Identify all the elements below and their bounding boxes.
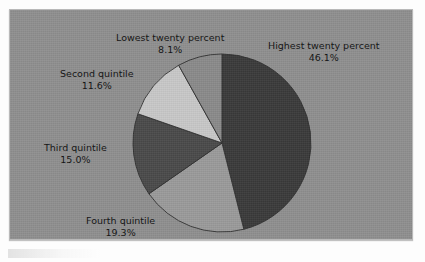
pie-label-name: Fourth quintile	[86, 215, 155, 227]
pie-label-second-quintile: Second quintile 11.6%	[60, 68, 134, 92]
chart-frame: Highest twenty percent 46.1% Lowest twen…	[9, 9, 413, 240]
pie-label-lowest-twenty-percent: Lowest twenty percent 8.1%	[116, 32, 224, 56]
pie-label-name: Third quintile	[44, 142, 107, 154]
pie-chart-plot-area: Highest twenty percent 46.1% Lowest twen…	[10, 10, 412, 239]
pie-slice-group	[133, 54, 311, 232]
pie-label-value: 8.1%	[116, 44, 224, 56]
pie-label-name: Highest twenty percent	[268, 40, 380, 52]
pie-label-third-quintile: Third quintile 15.0%	[44, 142, 107, 166]
pie-label-highest-twenty-percent: Highest twenty percent 46.1%	[268, 40, 380, 64]
pie-label-fourth-quintile: Fourth quintile 19.3%	[86, 215, 155, 239]
scan-artifact	[8, 249, 100, 258]
pie-label-value: 15.0%	[44, 154, 107, 166]
pie-label-value: 46.1%	[268, 52, 380, 64]
pie-label-name: Second quintile	[60, 68, 134, 80]
pie-label-value: 11.6%	[60, 80, 134, 92]
page: Highest twenty percent 46.1% Lowest twen…	[0, 0, 425, 262]
pie-label-value: 19.3%	[86, 227, 155, 239]
pie-label-name: Lowest twenty percent	[116, 32, 224, 44]
